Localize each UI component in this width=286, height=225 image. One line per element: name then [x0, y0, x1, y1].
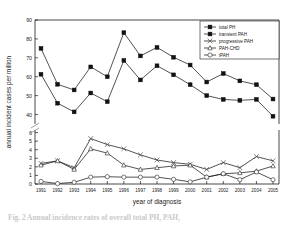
data-point [188, 63, 192, 67]
data-point [155, 64, 159, 68]
y-ticklabel-lower: 2 [29, 164, 32, 170]
series-pah-chd [39, 146, 275, 178]
x-ticklabel: 1994 [86, 188, 97, 193]
y-ticklabel-upper: 50 [26, 93, 32, 99]
data-point [271, 158, 276, 163]
legend-label: total PH [219, 25, 235, 30]
x-ticklabel: 1992 [52, 188, 63, 193]
legend-label: iPAH [219, 53, 229, 58]
y-ticklabel-upper: 60 [26, 74, 32, 80]
legend-marker-filled-square [208, 32, 212, 36]
data-point [56, 101, 60, 105]
data-point [238, 178, 242, 182]
data-point [122, 59, 126, 63]
data-point [138, 175, 142, 179]
data-point [121, 146, 126, 151]
figure-container: 4050607080900123456199119921993199419951… [0, 0, 286, 225]
x-ticklabel: 1993 [69, 188, 80, 193]
data-point [122, 163, 126, 167]
x-ticklabel: 1995 [102, 188, 113, 193]
x-ticklabel: 2005 [268, 188, 279, 193]
data-point [72, 88, 76, 92]
data-point [138, 152, 143, 157]
data-point [105, 175, 109, 179]
data-point [172, 73, 176, 77]
data-point [39, 46, 43, 50]
data-point [188, 180, 192, 184]
legend-marker-open-circle [208, 53, 212, 57]
data-point [122, 31, 126, 35]
data-point [56, 82, 60, 86]
data-point [205, 175, 209, 179]
x-ticklabel: 1997 [135, 188, 146, 193]
data-point [172, 55, 176, 59]
data-point [155, 175, 159, 179]
y-ticklabel-lower: 3 [29, 155, 32, 161]
data-point [89, 65, 93, 69]
y-ticklabel-upper: 80 [26, 36, 32, 42]
figure-caption: Fig. 2 Annual incidence rates of overall… [8, 213, 278, 222]
legend-marker-filled-square [208, 25, 212, 29]
legend-label: transient PAH [219, 32, 247, 37]
data-point [271, 178, 275, 182]
data-point [39, 179, 43, 183]
y-ticklabel-upper: 40 [26, 112, 32, 118]
x-ticklabel: 1998 [152, 188, 163, 193]
data-point [255, 83, 259, 87]
legend-label: progressive PAH [219, 39, 253, 44]
data-point [271, 97, 275, 101]
data-point [171, 177, 175, 181]
data-point [39, 72, 43, 76]
data-point [188, 83, 192, 87]
y-ticklabel-lower: 5 [29, 138, 32, 144]
data-point [155, 46, 159, 50]
x-axis-title: year of diagnosis [133, 198, 181, 206]
data-point [254, 170, 258, 174]
legend-label: PAH-CHD [219, 46, 240, 51]
x-ticklabel: 2000 [185, 188, 196, 193]
data-point [221, 172, 225, 176]
y-ticklabel-lower: 6 [29, 130, 32, 136]
y-ticklabel-upper: 90 [26, 17, 32, 23]
data-point [254, 154, 259, 159]
data-point [205, 80, 209, 84]
x-ticklabel: 1996 [119, 188, 130, 193]
x-ticklabel: 2001 [202, 188, 213, 193]
y-ticklabel-upper: 70 [26, 55, 32, 61]
data-point [205, 94, 209, 98]
data-point [72, 180, 76, 184]
data-point [122, 175, 126, 179]
data-point [72, 110, 76, 114]
data-point [89, 91, 93, 95]
x-ticklabel: 2004 [251, 188, 262, 193]
x-ticklabel: 2002 [218, 188, 229, 193]
data-point [221, 160, 226, 165]
data-point [105, 142, 110, 147]
data-point [238, 79, 242, 83]
data-point [255, 98, 259, 102]
data-point [139, 78, 143, 82]
data-point [238, 98, 242, 102]
data-point [89, 175, 93, 179]
y-ticklabel-lower: 0 [29, 181, 32, 187]
data-point [271, 114, 275, 118]
y-ticklabel-lower: 1 [29, 172, 32, 178]
data-point [88, 136, 93, 141]
x-ticklabel: 1999 [168, 188, 179, 193]
data-point [221, 98, 225, 102]
data-point [271, 164, 275, 168]
series-line [41, 149, 273, 177]
data-point [105, 75, 109, 79]
legend: total PHtransient PAHprogressive PAHPAH-… [200, 21, 279, 59]
data-point [204, 167, 209, 172]
data-point [237, 165, 242, 170]
data-point [221, 72, 225, 76]
data-point [55, 181, 59, 185]
data-point [139, 54, 143, 58]
y-axis-title: annual incident cases per million [5, 55, 13, 148]
data-point [105, 100, 109, 104]
x-ticklabel: 2003 [235, 188, 246, 193]
line-chart: 4050607080900123456199119921993199419951… [0, 0, 286, 212]
y-ticklabel-lower: 4 [29, 147, 32, 153]
data-point [89, 146, 93, 150]
